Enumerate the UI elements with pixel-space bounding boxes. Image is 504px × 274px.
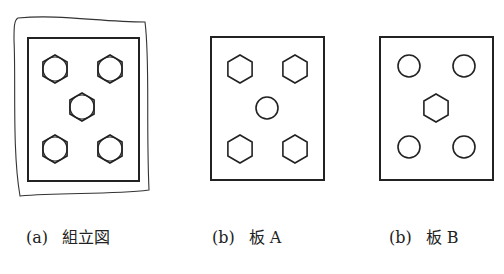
round-hole-icon <box>398 55 420 77</box>
caption-plate-b: (b)板 B <box>389 224 459 248</box>
plate-a <box>211 37 324 180</box>
bolt-icon <box>70 93 94 121</box>
round-hole-icon <box>453 136 475 158</box>
hex-hole-icon <box>283 55 307 83</box>
figure-assembly <box>14 17 149 196</box>
hex-hole-icon <box>228 55 252 83</box>
figure-plate-b <box>380 37 493 180</box>
caption-label: (b) <box>389 228 412 247</box>
assembly-plate <box>28 38 139 181</box>
caption-plate-a: (b)板 A <box>212 224 281 248</box>
hex-hole-icon <box>283 135 307 163</box>
caption-assembly: (a)組立図 <box>26 224 110 248</box>
plate-b <box>380 37 493 180</box>
bolt-icon <box>98 135 122 163</box>
caption-label: (b) <box>212 228 235 247</box>
round-hole-icon <box>453 55 475 77</box>
round-hole-icon <box>256 97 278 119</box>
wavy-outline <box>14 17 149 196</box>
figure-plate-a <box>211 37 324 180</box>
bolt-icon <box>43 55 67 83</box>
bolt-icon <box>98 55 122 83</box>
bolt-icon <box>43 135 67 163</box>
caption-title: 組立図 <box>62 224 110 248</box>
hex-hole-icon <box>424 94 448 122</box>
hex-hole-icon <box>228 135 252 163</box>
round-hole-icon <box>398 136 420 158</box>
caption-label: (a) <box>26 228 48 247</box>
caption-title: 板 B <box>426 224 459 248</box>
caption-title: 板 A <box>249 224 282 248</box>
